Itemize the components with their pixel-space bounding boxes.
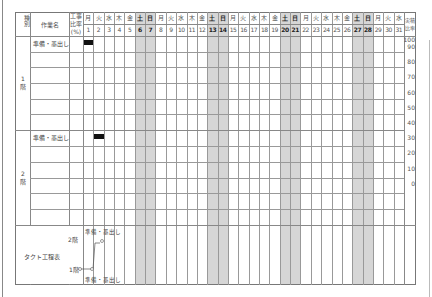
takt-network-diagram xyxy=(0,0,432,297)
